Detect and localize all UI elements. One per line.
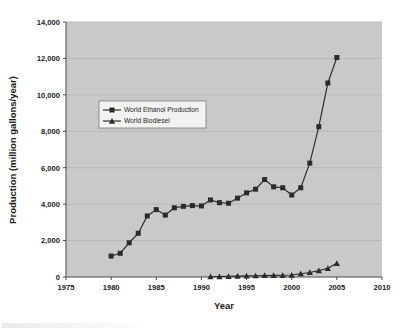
legend-label: World Biodiesel (124, 117, 170, 124)
data-point-marker (190, 203, 195, 208)
x-axis-tick-label: 1990 (193, 283, 210, 292)
x-axis-tick-label: 1985 (148, 283, 166, 292)
x-axis-tick-label: 2000 (283, 283, 300, 292)
data-point-marker (127, 240, 132, 245)
data-point-marker (181, 204, 186, 209)
y-axis-title: Production (million gallons/year) (7, 76, 18, 224)
data-point-marker (226, 201, 231, 206)
data-point-marker (118, 251, 123, 256)
data-point-marker (298, 185, 303, 190)
y-axis-tick-label: 12,000 (37, 54, 60, 63)
data-point-marker (208, 197, 213, 202)
data-point-marker (136, 231, 141, 236)
y-axis-tick-label: 14,000 (37, 18, 60, 27)
production-line-chart: 02,0004,0006,0008,00010,00012,00014,000 … (0, 0, 403, 329)
data-point-marker (145, 213, 150, 218)
x-axis-tick-label: 2010 (374, 283, 391, 292)
plot-area-background (66, 22, 382, 277)
y-axis-tick-label: 10,000 (37, 91, 60, 100)
x-axis-tick-label: 1975 (58, 283, 76, 292)
y-axis-tick-label: 0 (56, 273, 60, 282)
data-point-marker (217, 200, 222, 205)
y-axis-tick-label: 2,000 (41, 236, 60, 245)
y-axis-ticks-group: 02,0004,0006,0008,00010,00012,00014,000 (37, 18, 66, 282)
data-point-marker (235, 196, 240, 201)
data-point-marker (280, 185, 285, 190)
x-axis-tick-label: 1995 (238, 283, 256, 292)
data-point-marker (325, 81, 330, 86)
y-axis-tick-label: 8,000 (41, 127, 60, 136)
square-marker-icon (110, 108, 115, 113)
x-axis-tick-label: 1980 (103, 283, 120, 292)
data-point-marker (262, 177, 267, 182)
data-point-marker (289, 193, 294, 198)
x-axis-tick-label: 2005 (328, 283, 346, 292)
data-point-marker (316, 124, 321, 129)
data-point-marker (253, 187, 258, 192)
y-axis-tick-label: 6,000 (41, 164, 60, 173)
x-axis-ticks-group: 19751980198519901995200020052010 (58, 277, 391, 292)
y-axis-tick-label: 4,000 (41, 200, 60, 209)
data-point-marker (271, 184, 276, 189)
data-point-marker (334, 55, 339, 60)
data-point-marker (172, 205, 177, 210)
chart-legend[interactable]: World Ethanol ProductionWorld Biodiesel (99, 101, 206, 128)
data-point-marker (109, 254, 114, 259)
legend-label: World Ethanol Production (124, 106, 199, 113)
page-edge-artifact (2, 323, 152, 328)
data-point-marker (307, 161, 312, 166)
data-point-marker (163, 213, 168, 218)
chart-figure: 02,0004,0006,0008,00010,00012,00014,000 … (0, 0, 403, 329)
data-point-marker (154, 207, 159, 212)
x-axis-title: Year (214, 300, 234, 311)
data-point-marker (199, 203, 204, 208)
data-point-marker (244, 190, 249, 195)
